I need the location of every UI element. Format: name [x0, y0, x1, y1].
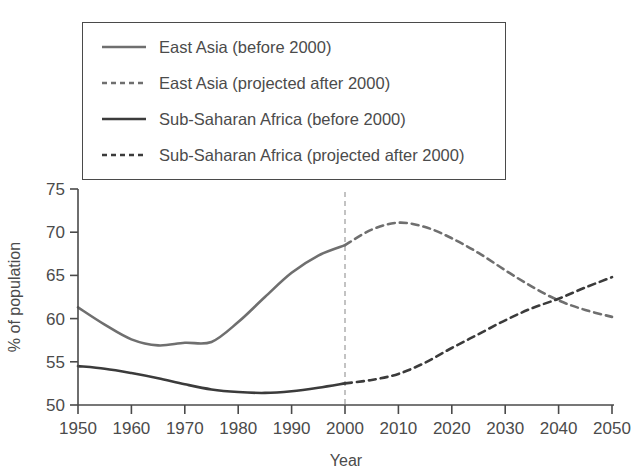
y-axis: 505560657075: [46, 180, 78, 415]
series-line: [345, 223, 612, 317]
y-axis-tick-label: 70: [46, 223, 65, 242]
y-axis-tick-label: 75: [46, 180, 65, 199]
chart-figure: East Asia (before 2000) East Asia (proje…: [0, 0, 640, 472]
x-axis: 1950196019701980199020002010202020302040…: [59, 405, 631, 438]
series-line: [345, 277, 612, 383]
x-axis-title: Year: [330, 452, 363, 469]
x-axis-tick-label: 1970: [166, 419, 204, 438]
x-axis-tick-label: 2010: [379, 419, 417, 438]
x-axis-tick-label: 1990: [273, 419, 311, 438]
x-axis-tick-label: 2020: [433, 419, 471, 438]
x-axis-tick-label: 1980: [219, 419, 257, 438]
x-axis-tick-label: 2000: [326, 419, 364, 438]
x-axis-tick-label: 2040: [540, 419, 578, 438]
x-axis-tick-label: 1960: [112, 419, 150, 438]
y-axis-tick-label: 60: [46, 310, 65, 329]
y-axis-tick-label: 55: [46, 353, 65, 372]
y-axis-title: % of population: [6, 242, 23, 352]
x-axis-tick-label: 2050: [593, 419, 631, 438]
series-line: [78, 245, 345, 345]
y-axis-tick-label: 50: [46, 396, 65, 415]
x-axis-tick-label: 1950: [59, 419, 97, 438]
y-axis-tick-label: 65: [46, 266, 65, 285]
x-axis-tick-label: 2030: [486, 419, 524, 438]
chart-plot-area: 505560657075 195019601970198019902000201…: [0, 0, 640, 472]
series-line: [78, 366, 345, 393]
